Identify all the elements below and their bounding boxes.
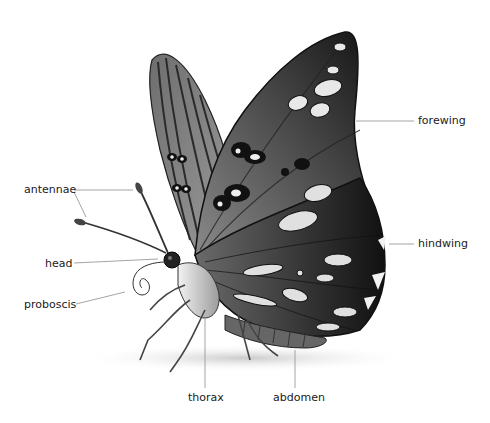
- butterfly-diagram: antennae head proboscis forewing hindwin…: [0, 0, 490, 423]
- label-antennae: antennae: [24, 183, 76, 196]
- ground-shadow: [75, 344, 415, 372]
- label-proboscis: proboscis: [24, 298, 76, 311]
- head: [164, 252, 180, 268]
- butterfly-illustration: [0, 0, 490, 423]
- label-head: head: [45, 257, 72, 270]
- label-abdomen: abdomen: [273, 391, 325, 404]
- proboscis: [133, 262, 166, 295]
- label-forewing: forewing: [418, 114, 466, 127]
- label-hindwing: hindwing: [418, 237, 468, 250]
- label-thorax: thorax: [188, 391, 224, 404]
- antennae: [82, 190, 168, 253]
